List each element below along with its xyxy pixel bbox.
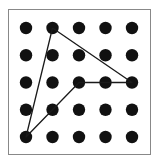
grid-dot [99,22,111,34]
grid-dot [20,104,32,116]
grid-dot [46,22,58,34]
grid-dot [46,76,58,88]
grid-dot [73,104,85,116]
grid-dot [46,49,58,61]
grid-dot [126,22,138,34]
grid-dot [20,22,32,34]
grid-dot [99,131,111,143]
grid-dot [99,104,111,116]
grid-dot [126,104,138,116]
grid-dot [126,49,138,61]
grid-dot [126,131,138,143]
grid-dot [20,76,32,88]
grid-dot [20,49,32,61]
grid-dot [73,131,85,143]
grid-dot [73,49,85,61]
grid-dot [73,22,85,34]
geoboard-diagram [0,0,159,164]
grid-dot [99,49,111,61]
grid-dot [46,131,58,143]
